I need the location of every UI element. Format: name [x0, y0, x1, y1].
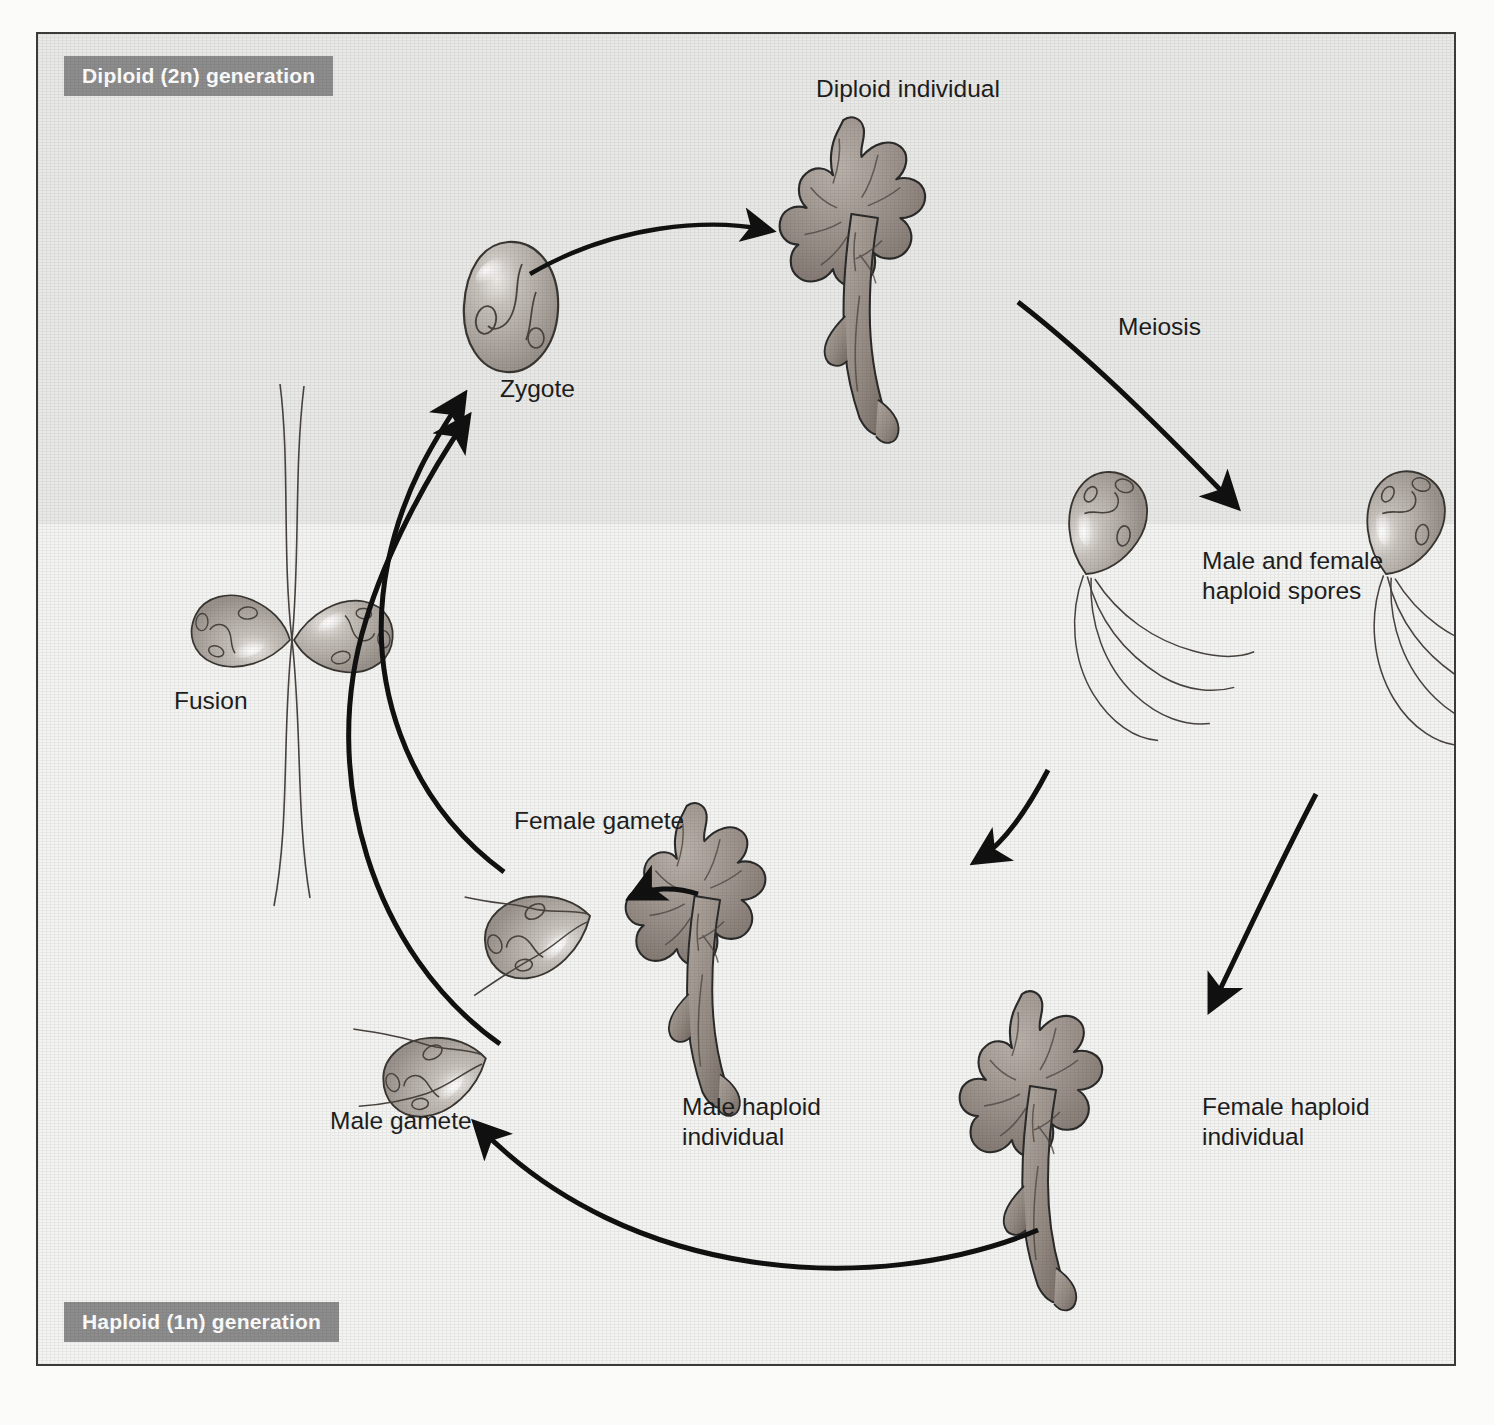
haploid-spore-right — [1312, 463, 1456, 765]
haploid-generation-band-label: Haploid (1n) generation — [64, 1302, 339, 1342]
diploid-individual-illustration — [780, 117, 925, 443]
label-meiosis: Meiosis — [1118, 312, 1201, 342]
fusion-illustration — [188, 384, 396, 906]
arrow-gametes-to-zygote-left — [349, 420, 500, 1044]
arrow-spore-to-male-individual — [978, 770, 1048, 860]
label-zygote: Zygote — [500, 374, 575, 404]
figure-frame: Diploid (2n) generation Haploid (1n) gen… — [36, 32, 1456, 1366]
label-male-haploid-individual: Male haploid individual — [682, 1092, 821, 1152]
zygote-illustration — [464, 242, 558, 372]
diagram-artwork — [38, 34, 1454, 1364]
label-female-gamete: Female gamete — [514, 806, 684, 836]
female-haploid-individual-illustration — [960, 991, 1103, 1310]
female-gamete-illustration — [465, 876, 604, 995]
life-cycle-figure: Diploid (2n) generation Haploid (1n) gen… — [0, 0, 1494, 1425]
label-female-haploid-individual: Female haploid individual — [1202, 1092, 1370, 1152]
arrow-zygote-to-diploid — [530, 225, 768, 274]
diploid-generation-band-label: Diploid (2n) generation — [64, 56, 333, 96]
arrow-fusion-to-zygote — [381, 398, 504, 872]
male-haploid-individual-illustration — [626, 803, 766, 1116]
label-male-gamete: Male gamete — [330, 1106, 472, 1136]
label-haploid-spores: Male and female haploid spores — [1202, 546, 1383, 606]
arrow-spore-to-female-individual — [1212, 794, 1316, 1006]
haploid-spore-left — [1010, 463, 1294, 762]
label-fusion: Fusion — [174, 686, 248, 716]
label-diploid-individual: Diploid individual — [816, 74, 1000, 104]
